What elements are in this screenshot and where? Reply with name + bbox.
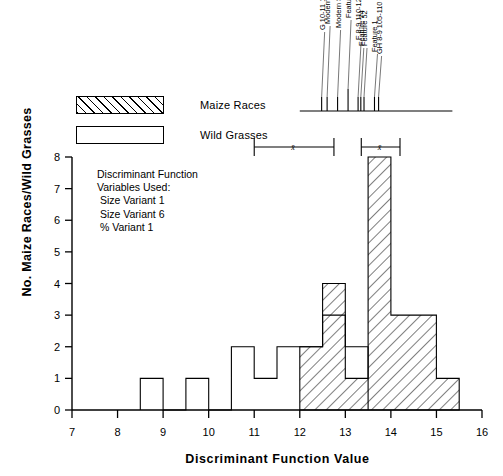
sample-leader-line <box>374 54 377 97</box>
y-tick-label: 4 <box>54 278 60 290</box>
x-tick-label: 13 <box>339 426 351 438</box>
x-tick-label: 11 <box>249 426 260 438</box>
sample-label: Feature 52 <box>360 10 369 46</box>
sample-label: Modern Soil Sample <box>334 0 343 28</box>
y-tick-label: 2 <box>54 341 60 353</box>
histogram-bars <box>140 157 459 410</box>
x-tick-label: 9 <box>160 426 166 438</box>
y-tick-label: 1 <box>54 372 60 384</box>
sample-leader-line <box>338 30 341 97</box>
range-bar-group: x̄x̄ <box>254 138 400 156</box>
y-tick-label: 8 <box>54 151 60 163</box>
x-tick-label: 7 <box>69 426 75 438</box>
wild-grasses-range-mean-label: x̄ <box>290 143 295 152</box>
sample-leader-line <box>361 48 364 97</box>
sample-leader-line <box>322 32 325 97</box>
histogram-series-maize-races <box>300 157 459 410</box>
sample-leader-line <box>348 20 351 89</box>
y-tick-label: 0 <box>54 404 60 416</box>
y-tick-label: 7 <box>54 183 60 195</box>
x-tick-label: 14 <box>385 426 397 438</box>
plot-area: G 10-11 130-140Modern Soil Sample 2Moder… <box>0 0 503 476</box>
sample-marker-strip: G 10-11 130-140Modern Soil Sample 2Moder… <box>300 0 453 111</box>
y-tick-label: 5 <box>54 246 60 258</box>
x-tick-label: 12 <box>294 426 306 438</box>
sample-label: Modern Soil Sample 2 <box>323 0 332 24</box>
x-tick-label: 8 <box>114 426 120 438</box>
sample-leader-line <box>327 26 330 97</box>
y-tick-label: 3 <box>54 309 60 321</box>
sample-label: Feature 62 <box>344 0 353 18</box>
figure-canvas: Maize Races Wild Grasses Discriminant Fu… <box>0 0 503 476</box>
sample-leader-line <box>379 56 382 97</box>
y-tick-label: 6 <box>54 214 60 226</box>
x-tick-label: 15 <box>430 426 442 438</box>
x-tick-label: 16 <box>476 426 488 438</box>
sample-leader-line <box>358 42 361 97</box>
x-tick-label: 10 <box>203 426 215 438</box>
maize-races-range-mean-label: x̄ <box>377 143 382 152</box>
sample-label: GH 8-9 105-110 <box>375 2 384 54</box>
sample-leader-line <box>364 48 367 97</box>
